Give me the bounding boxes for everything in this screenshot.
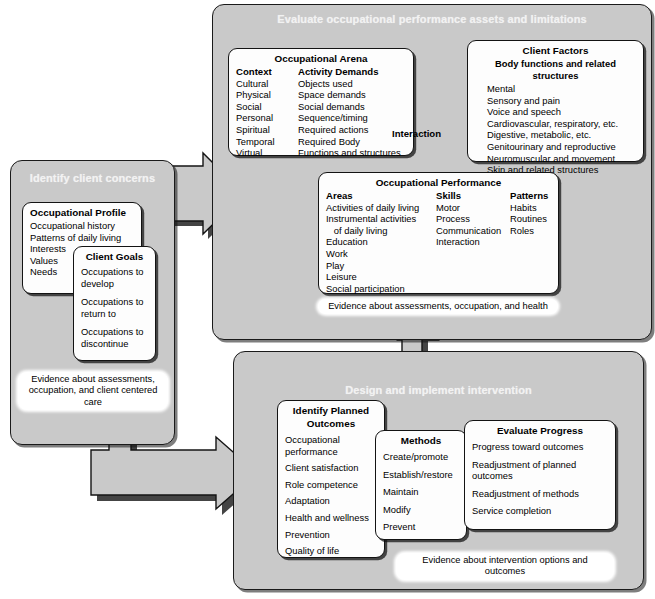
list-item: Voice and speech: [487, 106, 636, 118]
list-item: Instrumental activities: [326, 213, 436, 225]
list-item: Adaptation: [285, 495, 377, 507]
list-item: Work: [326, 248, 436, 260]
evidence-design: Evidence about intervention options and …: [396, 553, 614, 580]
client-goals-heading: Client Goals: [81, 251, 148, 263]
card-evaluate-progress[interactable]: Evaluate Progress Progress toward outcom…: [464, 420, 616, 530]
list-item: Roles: [510, 225, 551, 237]
list-item: Process: [436, 213, 510, 225]
performance-patterns-list: Habits Routines Roles: [510, 202, 551, 237]
list-item: of daily living: [326, 225, 436, 237]
list-item: Cultural: [236, 78, 298, 90]
client-factors-subheading: Body functions and related structures: [475, 58, 636, 82]
list-item: Readjustment of planned outcomes: [472, 459, 608, 482]
list-item: Occupations to discontinue: [81, 326, 148, 349]
list-item: Occupational performance: [285, 434, 377, 457]
performance-column-patterns: Patterns Habits Routines Roles: [510, 190, 551, 294]
list-item: Health and wellness: [285, 512, 377, 524]
list-item: Social participation: [326, 283, 436, 295]
list-item: Habits: [510, 202, 551, 214]
performance-patterns-heading: Patterns: [510, 190, 551, 202]
panel-identify-title: Identify client concerns: [11, 172, 174, 184]
client-goals-list: Occupations to develop Occupations to re…: [81, 266, 148, 350]
card-methods[interactable]: Methods Create/promote Establish/restore…: [375, 430, 467, 540]
arena-activity-demands-heading: Activity Demands: [298, 66, 406, 78]
planned-outcomes-heading-line1: Identify Planned: [285, 405, 377, 417]
list-item: Functions and structures: [298, 147, 406, 159]
list-item: Prevention: [285, 529, 377, 541]
list-item: Digestive, metabolic, etc.: [487, 129, 636, 141]
arena-column-context: Context Cultural Physical Social Persona…: [236, 66, 298, 159]
list-item: Personal: [236, 112, 298, 124]
evidence-identify: Evidence about assessments, occupation, …: [18, 372, 168, 410]
list-item: Play: [326, 260, 436, 272]
arena-context-heading: Context: [236, 66, 298, 78]
list-item: Service completion: [472, 505, 608, 517]
occupational-arena-heading: Occupational Arena: [236, 53, 406, 65]
list-item: Occupational history: [30, 220, 134, 232]
list-item: Patterns of daily living: [30, 232, 134, 244]
list-item: Education: [326, 236, 436, 248]
list-item: Maintain: [383, 486, 459, 498]
card-client-goals[interactable]: Client Goals Occupations to develop Occu…: [73, 246, 156, 361]
performance-areas-list: Activities of daily living Instrumental …: [326, 202, 436, 295]
list-item: Occupations to return to: [81, 296, 148, 319]
list-item: Physical: [236, 89, 298, 101]
methods-list: Create/promote Establish/restore Maintai…: [383, 451, 459, 533]
performance-skills-heading: Skills: [436, 190, 510, 202]
list-item: Temporal: [236, 136, 298, 148]
list-item: Activities of daily living: [326, 202, 436, 214]
list-item: Create/promote: [383, 451, 459, 463]
card-occupational-performance[interactable]: Occupational Performance Areas Activitie…: [318, 172, 559, 294]
list-item: Virtual: [236, 147, 298, 159]
performance-column-areas: Areas Activities of daily living Instrum…: [326, 190, 436, 294]
planned-outcomes-list: Occupational performance Client satisfac…: [285, 434, 377, 557]
arena-column-activity-demands: Activity Demands Objects used Space dema…: [298, 66, 406, 159]
list-item: Social: [236, 101, 298, 113]
list-item: Neuromuscular and movement: [487, 153, 636, 165]
planned-outcomes-heading-line2: Outcomes: [285, 418, 377, 430]
panel-design-title: Design and implement intervention: [234, 384, 643, 396]
list-item: Interaction: [436, 236, 510, 248]
list-item: Cardiovascular, respiratory, etc.: [487, 118, 636, 130]
arena-activity-demands-list: Objects used Space demands Social demand…: [298, 78, 406, 159]
client-factors-heading: Client Factors: [475, 45, 636, 57]
list-item: Sequence/timing: [298, 112, 406, 124]
list-item: Leisure: [326, 271, 436, 283]
list-item: Spiritual: [236, 124, 298, 136]
panel-evaluate-title: Evaluate occupational performance assets…: [213, 13, 651, 25]
list-item: Required actions: [298, 124, 406, 136]
list-item: Objects used: [298, 78, 406, 90]
performance-areas-heading: Areas: [326, 190, 436, 202]
list-item: Prevent: [383, 521, 459, 533]
list-item: Occupations to develop: [81, 266, 148, 289]
list-item: Space demands: [298, 89, 406, 101]
list-item: Sensory and pain: [487, 95, 636, 107]
occupational-profile-heading: Occupational Profile: [30, 207, 134, 219]
client-factors-list: Mental Sensory and pain Voice and speech…: [475, 83, 636, 176]
diagram-canvas: Identify client concerns Occupational Pr…: [0, 0, 655, 599]
list-item: Readjustment of methods: [472, 488, 608, 500]
list-item: Mental: [487, 83, 636, 95]
list-item: Establish/restore: [383, 469, 459, 481]
list-item: Client satisfaction: [285, 462, 377, 474]
arena-context-list: Cultural Physical Social Personal Spirit…: [236, 78, 298, 159]
occupational-performance-heading: Occupational Performance: [326, 177, 551, 189]
performance-column-skills: Skills Motor Process Communication Inter…: [436, 190, 510, 294]
list-item: Motor: [436, 202, 510, 214]
evidence-evaluate: Evidence about assessments, occupation, …: [318, 299, 558, 314]
card-client-factors[interactable]: Client Factors Body functions and relate…: [467, 40, 644, 162]
list-item: Modify: [383, 504, 459, 516]
list-item: Progress toward outcomes: [472, 441, 608, 453]
list-item: Quality of life: [285, 545, 377, 557]
evaluate-progress-heading: Evaluate Progress: [472, 425, 608, 437]
performance-skills-list: Motor Process Communication Interaction: [436, 202, 510, 248]
list-item: Role competence: [285, 479, 377, 491]
interaction-label: Interaction: [392, 128, 441, 139]
card-identify-planned-outcomes[interactable]: Identify Planned Outcomes Occupational p…: [277, 400, 385, 558]
card-occupational-arena[interactable]: Occupational Arena Context Cultural Phys…: [228, 48, 414, 156]
list-item: Genitourinary and reproductive: [487, 141, 636, 153]
list-item: Communication: [436, 225, 510, 237]
methods-heading: Methods: [383, 435, 459, 447]
list-item: Required Body: [298, 136, 406, 148]
list-item: Routines: [510, 213, 551, 225]
